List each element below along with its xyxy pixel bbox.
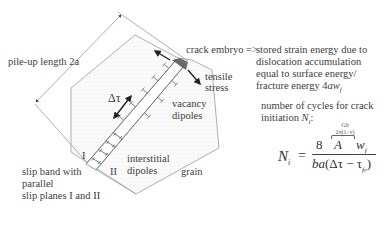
formula-lhs-sub: i	[288, 158, 290, 167]
cycles-formula: Ni = Gb 2π(1−ν) 8 A wf ba(Δτ − τfr)	[268, 124, 378, 180]
crack-embryo-label: crack embryo =>	[186, 44, 258, 56]
slip-plane-II-label: II	[110, 166, 117, 178]
cycles-line-2-prefix: initiation	[261, 112, 302, 123]
cycles-line-1: number of cycles for crack	[261, 100, 374, 112]
pile-up-length-label: pile-up length 2a	[8, 56, 79, 68]
formula-num-const: 8	[316, 137, 323, 153]
formula-num-w: wf	[356, 137, 367, 155]
description-line-4: fracture energy 4awf	[256, 80, 342, 96]
formula-den-rest: (Δτ − τ	[325, 156, 362, 171]
cycles-line-2-var: N	[302, 112, 309, 123]
formula-lhs-var: N	[278, 148, 288, 164]
description-line-4-prefix: fracture energy 4	[256, 80, 328, 91]
delta-tau-label: Δτ	[108, 92, 121, 104]
formula-lhs: Ni	[278, 148, 290, 167]
description-line-4-sub: f	[340, 86, 342, 94]
formula-A-definition: Gb 2π(1−ν)	[330, 122, 360, 136]
formula-den-close: )	[367, 156, 371, 171]
formula-fraction-bar	[312, 154, 376, 155]
slip-band-label-2: parallel	[22, 178, 53, 190]
vacancy-dipoles-label-2: dipoles	[172, 110, 202, 122]
grain-label: grain	[181, 166, 203, 178]
description-line-3: equal to surface energy/	[256, 68, 356, 80]
slip-band-label-1: slip band with	[22, 166, 82, 178]
slip-band-label-3: slip planes I and II	[22, 190, 100, 202]
vacancy-dipoles-label-1: vacancy	[172, 98, 206, 110]
description-line-4-var: aw	[328, 80, 340, 91]
formula-A-def-line-1: Gb	[330, 122, 360, 129]
interstitial-dipoles-label-1: interstitial	[127, 153, 170, 165]
formula-denominator: ba(Δτ − τfr)	[312, 156, 371, 174]
formula-den-ba: ba	[312, 156, 325, 171]
interstitial-dipoles-label-2: dipoles	[127, 165, 157, 177]
slip-plane-I-label: I	[82, 150, 86, 162]
formula-num-w-var: w	[356, 137, 365, 152]
formula-num-A: A	[334, 137, 342, 153]
tensile-stress-label-2: stress	[205, 82, 228, 94]
formula-equals: =	[298, 148, 306, 164]
description-line-1: stored strain energy due to	[256, 44, 367, 56]
cycles-line-2-suffix: :	[311, 112, 314, 123]
description-line-2: dislocation accumulation	[256, 56, 361, 68]
